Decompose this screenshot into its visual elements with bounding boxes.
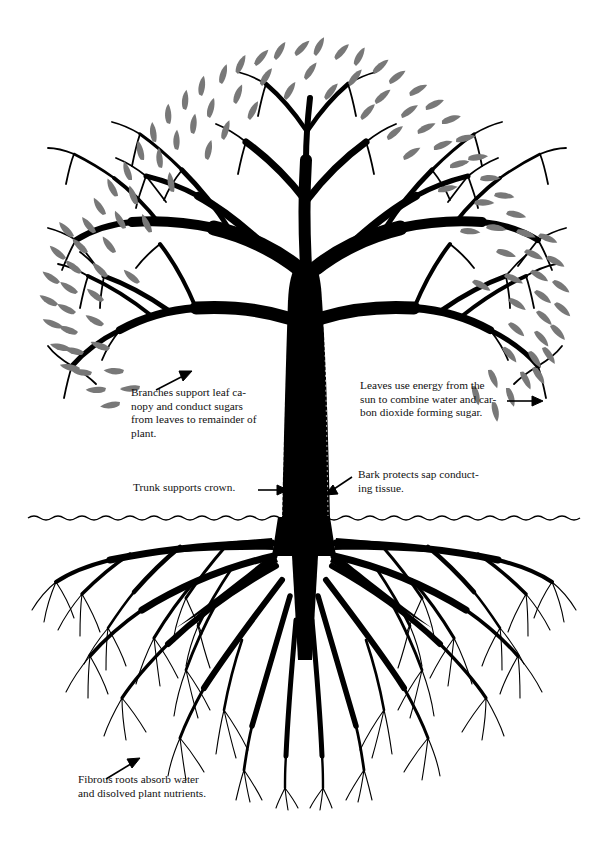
roots-callout: Fibrous roots absorb water and disolved … [78,773,264,800]
bark-line-1: Bark protects sap conduct- [358,468,479,482]
roots-line-1: Fibrous roots absorb water [78,773,264,787]
leaves-line-2: sun to combine water and car- [360,393,508,407]
root-system [32,517,576,810]
trunk-callout: Trunk supports crown. [133,481,261,495]
branches-line-4: plant. [131,427,283,441]
bark-callout: Bark protects sap conduct- ing tissue. [358,468,508,495]
trunk [282,300,330,518]
leaves-line-1: Leaves use energy from the [360,379,508,393]
roots-line-2: and disolved plant nutrients. [78,787,264,801]
branches-line-1: Branches support leaf ca- [131,386,246,400]
branches-callout: Branches support leaf ca- nopy and condu… [131,386,283,440]
branches-line-2: nopy and conduct sugars [131,400,243,414]
trunk-line-1: Trunk supports crown. [133,481,261,495]
leaves-line-3: bon dioxide forming sugar. [360,406,508,420]
leaves-callout: Leaves use energy from the sun to combin… [360,379,508,420]
bark-line-2: ing tissue. [358,482,508,496]
branches-line-3: from leaves to remainder of [131,413,283,427]
diagram-page: Branches support leaf ca- nopy and condu… [0,0,608,850]
tree-illustration [0,0,608,850]
